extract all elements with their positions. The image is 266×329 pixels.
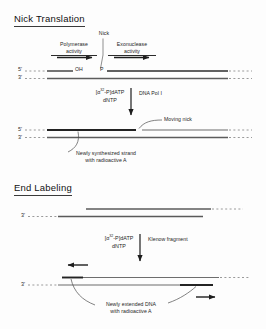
- el-product-three-prime-label: 3': [21, 281, 25, 287]
- phosphate-label: P: [100, 67, 104, 73]
- reagent-rest-2: -P]dATP: [113, 235, 133, 241]
- hydroxyl-label: OH: [75, 67, 83, 73]
- reagent-dntp-2: dNTP: [91, 242, 147, 250]
- nick-pointer-line: [101, 39, 104, 69]
- figure-canvas: Nick Translation Nick Polymerase activit…: [0, 0, 266, 329]
- product-three-prime-label: 3': [18, 134, 22, 140]
- polymerase-activity-label-line2: activity: [51, 49, 97, 56]
- new-strand-leader: [68, 132, 79, 153]
- product-five-prime-label: 5': [18, 126, 22, 132]
- reagent-rest-1: -P]dATP: [104, 89, 124, 95]
- moving-nick-leader: [139, 120, 162, 129]
- substrate-three-prime-label: 3': [18, 74, 22, 80]
- moving-nick-caption: Moving nick: [164, 117, 192, 123]
- el-caption-leader-right: [168, 287, 196, 304]
- enzyme-label-klenow-fragment: Klenow fragment: [148, 237, 188, 243]
- substrate-five-prime-label: 5': [18, 66, 22, 72]
- el-substrate-three-prime-label: 3': [21, 212, 25, 218]
- enzyme-label-dna-pol-i: DNA Pol I: [139, 91, 162, 97]
- nick-label: Nick: [92, 31, 116, 37]
- exonuclease-activity-label-line2: activity: [108, 49, 156, 56]
- el-caption-line2: with radioactive A: [90, 309, 172, 315]
- section-title-end-labeling: End Labeling: [14, 183, 72, 196]
- new-strand-caption-line2: with radioactive A: [60, 158, 152, 164]
- reagent-label-1: [α32-P]dATP dNTP: [82, 88, 138, 105]
- section-title-nick-translation: Nick Translation: [14, 14, 85, 27]
- reagent-label-2: [α32-P]dATP dNTP: [91, 234, 147, 251]
- reagent-dntp-1: dNTP: [82, 96, 138, 104]
